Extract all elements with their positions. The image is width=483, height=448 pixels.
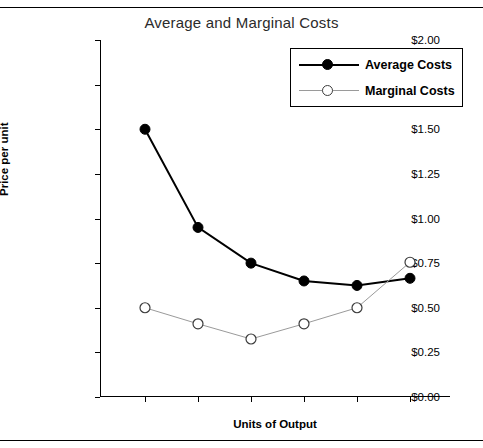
x-tick-mark [304, 397, 305, 402]
series-line-average-costs [145, 129, 410, 285]
x-tick-mark [198, 397, 199, 402]
legend-sample-open-circle-icon [299, 81, 359, 101]
data-point-average-costs [299, 276, 309, 286]
x-tick-mark [251, 397, 252, 402]
data-point-average-costs [246, 258, 256, 268]
legend-sample-filled-circle-icon [299, 55, 359, 75]
x-tick-mark [410, 397, 411, 402]
chart-title: Average and Marginal Costs [0, 14, 483, 31]
series-line-marginal-costs [145, 262, 410, 339]
bottom-divider-rule [0, 440, 483, 441]
legend-item-average-costs: Average Costs [291, 52, 464, 78]
x-axis-title: Units of Output [100, 418, 450, 430]
x-tick-mark [145, 397, 146, 402]
chart-page: Average and Marginal Costs Price per uni… [0, 0, 483, 448]
data-point-average-costs [193, 222, 203, 232]
data-point-marginal-costs [352, 303, 362, 313]
legend-label-average-costs: Average Costs [365, 58, 452, 72]
legend-label-marginal-costs: Marginal Costs [365, 84, 455, 98]
chart-legend: Average Costs Marginal Costs [290, 48, 463, 107]
data-point-average-costs [140, 124, 150, 134]
data-point-marginal-costs [246, 334, 256, 344]
x-tick-mark [357, 397, 358, 402]
data-point-average-costs [405, 273, 415, 283]
data-point-marginal-costs [299, 319, 309, 329]
data-point-marginal-costs [140, 303, 150, 313]
data-point-average-costs [352, 280, 362, 290]
y-axis-title: Price per unit [0, 123, 10, 197]
legend-item-marginal-costs: Marginal Costs [291, 78, 464, 104]
top-divider-rule [0, 7, 483, 8]
data-point-marginal-costs [405, 257, 415, 267]
y-tick-mark [95, 397, 100, 398]
data-point-marginal-costs [193, 319, 203, 329]
